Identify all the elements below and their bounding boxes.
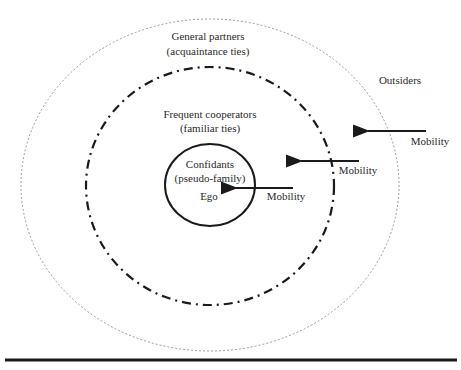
confidants-ring bbox=[165, 144, 255, 226]
outsiders-label: Outsiders bbox=[379, 74, 421, 86]
confidants-subtitle: (pseudo-family) bbox=[175, 172, 246, 185]
general-partners-subtitle: (acquaintance ties) bbox=[167, 45, 250, 58]
concentric-ties-diagram: General partners (acquaintance ties) Fre… bbox=[0, 0, 461, 370]
ego-label: Ego bbox=[200, 190, 218, 202]
confidants-title: Confidants bbox=[186, 158, 234, 170]
frequent-cooperators-subtitle: (familiar ties) bbox=[180, 122, 241, 135]
general-partners-ring bbox=[21, 19, 399, 351]
frequent-cooperators-title: Frequent cooperators bbox=[163, 108, 256, 120]
frequent-cooperators-ring bbox=[86, 67, 334, 305]
mobility-label-middle: Mobility bbox=[339, 164, 378, 176]
general-partners-title: General partners bbox=[172, 30, 245, 42]
mobility-label-inner: Mobility bbox=[267, 190, 306, 202]
mobility-label-outer: Mobility bbox=[411, 135, 450, 147]
